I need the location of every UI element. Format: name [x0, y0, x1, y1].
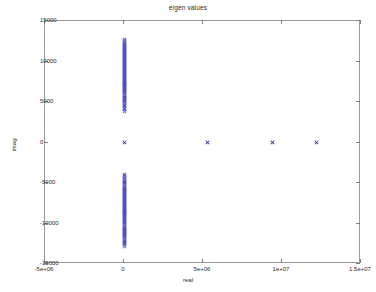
data-point: [122, 199, 127, 204]
data-point: [122, 180, 127, 185]
data-point: [122, 188, 127, 193]
data-point: [122, 51, 127, 56]
data-point: [122, 60, 127, 65]
data-point: [122, 207, 127, 212]
data-point: [122, 217, 127, 222]
data-point: [122, 75, 127, 80]
data-point: [122, 53, 127, 58]
y-tick: [356, 263, 360, 264]
data-point: [270, 140, 275, 145]
y-tick: [44, 142, 48, 143]
data-point: [122, 58, 127, 63]
data-point: [122, 37, 127, 42]
data-point: [122, 237, 127, 242]
data-point: [122, 98, 127, 103]
data-point: [122, 79, 127, 84]
data-point: [122, 55, 127, 60]
data-point: [122, 184, 127, 189]
data-point: [122, 81, 127, 86]
data-point: [122, 48, 127, 53]
data-point: [122, 45, 127, 50]
x-axis-label: real: [0, 277, 376, 283]
data-point: [122, 220, 127, 225]
data-point: [122, 239, 127, 244]
data-point: [122, 190, 127, 195]
data-point: [122, 89, 127, 94]
data-point: [122, 140, 127, 145]
data-point: [122, 215, 127, 220]
y-tick-label: 10000: [40, 58, 57, 64]
data-point: [122, 77, 127, 82]
data-point: [122, 56, 127, 61]
x-tick-label: 1e+07: [273, 266, 290, 272]
data-point: [122, 103, 127, 108]
data-point: [122, 85, 127, 90]
x-tick: [202, 20, 203, 24]
y-tick-label: 5000: [40, 98, 53, 104]
data-point: [122, 102, 127, 107]
data-point: [122, 66, 127, 71]
data-point: [122, 205, 127, 210]
data-point: [205, 140, 210, 145]
y-tick-label: -5000: [40, 179, 55, 185]
data-point: [122, 88, 127, 93]
data-point: [122, 104, 127, 109]
data-point: [122, 231, 127, 236]
x-tick: [281, 20, 282, 24]
data-point: [122, 67, 127, 72]
data-point: [122, 90, 127, 95]
data-point: [122, 41, 127, 46]
data-point: [122, 97, 127, 102]
data-point: [122, 70, 127, 75]
plot-title: eigen values: [0, 4, 376, 11]
data-point: [122, 214, 127, 219]
data-point: [122, 234, 127, 239]
y-tick-label: -10000: [40, 220, 59, 226]
data-point: [122, 68, 127, 73]
data-point: [122, 95, 127, 100]
data-point: [122, 100, 127, 105]
data-point: [122, 40, 127, 45]
x-tick: [123, 20, 124, 24]
data-point: [122, 109, 127, 114]
data-point: [122, 182, 127, 187]
data-point: [122, 175, 127, 180]
data-point: [122, 72, 127, 77]
x-tick: [360, 20, 361, 24]
data-point: [122, 107, 127, 112]
data-point: [122, 173, 127, 178]
data-point: [122, 181, 127, 186]
data-point: [122, 224, 127, 229]
data-point: [122, 193, 127, 198]
data-point: [122, 84, 127, 89]
y-axis-label: imag: [11, 125, 17, 165]
x-tick-label: -5e+06: [35, 266, 54, 272]
figure: eigen values -5e+0605e+061e+071.5e+07 -1…: [0, 0, 376, 292]
plot-axes-box: [44, 20, 360, 263]
data-point: [122, 191, 127, 196]
data-point: [122, 78, 127, 83]
data-point: [122, 91, 127, 96]
data-point: [122, 63, 127, 68]
data-point: [122, 209, 127, 214]
data-point: [122, 233, 127, 238]
data-point: [122, 179, 127, 184]
data-point: [122, 69, 127, 74]
y-tick: [356, 101, 360, 102]
data-point: [122, 80, 127, 85]
x-tick-label: 0: [121, 266, 124, 272]
data-point: [122, 225, 127, 230]
data-point: [122, 83, 127, 88]
data-point: [122, 44, 127, 49]
y-tick: [356, 223, 360, 224]
y-tick-label: -15000: [40, 260, 59, 266]
data-point: [122, 209, 127, 214]
data-point: [122, 57, 127, 62]
y-tick: [356, 182, 360, 183]
data-point: [122, 211, 127, 216]
data-point: [122, 99, 127, 104]
data-point: [122, 43, 127, 48]
data-point: [122, 212, 127, 217]
data-point: [122, 195, 127, 200]
data-point: [122, 82, 127, 87]
